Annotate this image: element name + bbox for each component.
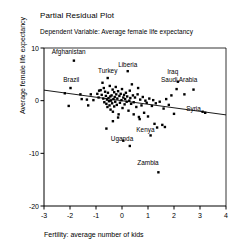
data-point [134, 96, 136, 98]
point-label: Zambia [137, 159, 159, 166]
data-point [124, 98, 126, 100]
data-point [117, 113, 119, 115]
data-point [132, 94, 134, 96]
data-point [136, 93, 138, 95]
data-point [117, 116, 119, 118]
y-tick-group: 100-10-20 [29, 45, 44, 210]
data-point [161, 124, 163, 126]
data-point [116, 104, 118, 106]
x-tick-label: 3 [198, 212, 202, 219]
data-point [97, 96, 99, 98]
data-point [92, 99, 94, 101]
x-tick-label: 1 [146, 212, 150, 219]
point-label: Turkey [98, 67, 118, 75]
point-label: Saudi Arabia [161, 76, 198, 83]
data-point [108, 100, 110, 102]
data-point [103, 101, 105, 103]
data-point [101, 94, 103, 96]
data-point [131, 83, 133, 85]
data-point [107, 77, 109, 79]
data-point [102, 97, 104, 99]
data-point [121, 88, 123, 90]
data-point [96, 93, 98, 95]
data-point [143, 112, 145, 114]
point-label: Brazil [63, 76, 79, 83]
point-label: Kenya [136, 126, 155, 134]
data-point [64, 92, 66, 94]
x-tick-label: 2 [172, 212, 176, 219]
point-annotations: AfghanistanBrazilTurkeyLiberiaIraqSaudi … [52, 48, 201, 167]
data-point [123, 94, 125, 96]
data-point [165, 98, 167, 100]
point-label: Afghanistan [52, 48, 86, 56]
data-point [129, 145, 131, 147]
data-point [126, 95, 128, 97]
data-point [87, 104, 89, 106]
x-tick-label: -1 [93, 212, 99, 219]
data-point [142, 96, 144, 98]
data-point [135, 106, 137, 108]
data-point [148, 97, 150, 99]
data-point [121, 107, 123, 109]
data-point [114, 101, 116, 103]
data-point [146, 102, 148, 104]
data-point [129, 89, 131, 91]
data-point [115, 86, 117, 88]
y-tick-label: -20 [29, 203, 39, 210]
data-point [120, 99, 122, 101]
y-tick-label: 10 [31, 45, 39, 52]
data-point [107, 92, 109, 94]
data-point [125, 101, 127, 103]
data-point [73, 59, 75, 61]
x-tick-label: -3 [41, 212, 47, 219]
data-point [183, 93, 185, 95]
data-point [113, 91, 115, 93]
data-point [137, 87, 139, 89]
data-point [127, 109, 129, 111]
data-point [99, 89, 101, 91]
data-point [175, 88, 177, 90]
data-point [79, 93, 81, 95]
data-point [81, 98, 83, 100]
x-tick-label: 4 [224, 212, 228, 219]
data-point [112, 120, 114, 122]
data-point [118, 95, 120, 97]
data-point [159, 101, 161, 103]
data-point [204, 112, 206, 114]
data-point [112, 98, 114, 100]
x-tick-label: -2 [67, 212, 73, 219]
data-point [105, 103, 107, 105]
data-point [133, 101, 135, 103]
data-point [113, 105, 115, 107]
data-point [162, 107, 164, 109]
data-point [138, 118, 140, 120]
data-point [110, 99, 112, 101]
data-point [104, 91, 106, 93]
data-point [149, 134, 151, 136]
data-point [123, 103, 125, 105]
data-point [111, 102, 113, 104]
data-point [151, 105, 153, 107]
data-point [90, 93, 92, 95]
data-point [173, 113, 175, 115]
x-tick-group: -3-2-101234 [41, 206, 228, 219]
data-point [110, 94, 112, 96]
data-point [106, 106, 108, 108]
data-point [138, 116, 140, 118]
data-point [68, 105, 70, 107]
data-point [101, 82, 103, 84]
data-point [105, 127, 107, 129]
data-point [114, 96, 116, 98]
data-point [170, 94, 172, 96]
point-label: Syria [186, 105, 201, 113]
data-point [112, 111, 114, 113]
data-point [133, 113, 135, 115]
y-tick-label: -10 [29, 150, 39, 157]
data-point [129, 97, 131, 99]
data-point [201, 111, 203, 113]
data-point [152, 99, 154, 101]
x-tick-label: 0 [120, 212, 124, 219]
data-point [111, 88, 113, 90]
point-label: Liberia [118, 61, 138, 68]
data-point [103, 87, 105, 89]
